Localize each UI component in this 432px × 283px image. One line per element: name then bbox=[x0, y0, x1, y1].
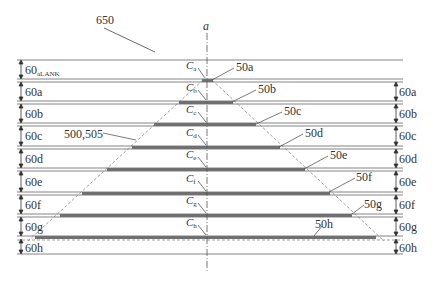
center-label-cc: Cc bbox=[186, 104, 196, 117]
bar-leaders bbox=[103, 68, 364, 236]
right-layer-label-60g: 60g bbox=[399, 221, 417, 233]
bar-50c bbox=[154, 123, 256, 126]
bar-label-50d: 50d bbox=[305, 127, 323, 139]
layer-label-60f: 60f bbox=[25, 199, 41, 211]
left-dimension-arrows bbox=[19, 60, 23, 254]
bar-label-50h: 50h bbox=[315, 218, 333, 230]
bar-label-50g: 50g bbox=[364, 198, 382, 210]
right-layer-label-60b: 60b bbox=[399, 108, 417, 120]
axis-label-a: a bbox=[203, 20, 209, 32]
right-layer-label-60e: 60e bbox=[399, 176, 416, 188]
right-layer-label-60c: 60c bbox=[399, 130, 416, 142]
center-label-ca: Ca bbox=[186, 60, 196, 73]
layer-label-60h: 60h bbox=[25, 242, 43, 254]
reference-label-650: 650 bbox=[96, 14, 114, 26]
right-layer-label-60h: 60h bbox=[399, 242, 417, 254]
center-label-ce: Ce bbox=[186, 149, 196, 162]
center-label-cb: Cb bbox=[186, 82, 197, 95]
bar-50f bbox=[82, 192, 330, 195]
bar-50g bbox=[60, 214, 352, 217]
center-label-cd: Cd bbox=[186, 127, 197, 140]
layer-stack-diagram: 650 a 500,505 60aLANK 60a 60b 60c 60d 60… bbox=[0, 0, 432, 283]
trapezoid-label: 500,505 bbox=[64, 128, 103, 140]
layer-label-60g: 60g bbox=[25, 221, 43, 233]
center-label-cf: Cf bbox=[186, 173, 196, 186]
layer-label-60d: 60d bbox=[25, 153, 43, 165]
center-leaders bbox=[198, 68, 206, 235]
center-label-cg: Cg bbox=[186, 195, 197, 208]
layer-label-60b: 60b bbox=[25, 108, 43, 120]
bar-50e bbox=[107, 168, 305, 171]
layer-label-60e: 60e bbox=[25, 176, 42, 188]
bar-label-50a: 50a bbox=[236, 61, 253, 73]
diagram-canvas bbox=[0, 0, 432, 283]
bar-label-50f: 50f bbox=[356, 171, 372, 183]
right-layer-label-60f: 60f bbox=[399, 199, 415, 211]
bar-label-50e: 50e bbox=[330, 149, 347, 161]
reference-650-leader bbox=[104, 28, 155, 52]
bar-50a bbox=[202, 79, 213, 82]
right-layer-label-60d: 60d bbox=[399, 153, 417, 165]
bars bbox=[35, 79, 376, 239]
layer-label-60c: 60c bbox=[25, 130, 42, 142]
bar-label-50b: 50b bbox=[258, 83, 276, 95]
bar-label-50c: 50c bbox=[284, 105, 301, 117]
layer-label-60aLANK: 60aLANK bbox=[25, 64, 60, 78]
bar-50h bbox=[35, 236, 376, 239]
center-label-ch: Ch bbox=[186, 217, 197, 230]
bar-50d bbox=[132, 146, 280, 149]
right-layer-label-60a: 60a bbox=[399, 86, 416, 98]
layer-label-60a: 60a bbox=[25, 86, 42, 98]
